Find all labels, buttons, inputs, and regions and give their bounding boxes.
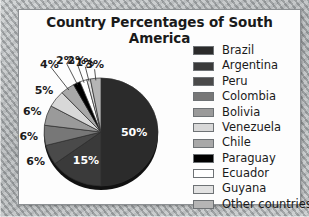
legend-item[interactable]: Peru [193, 74, 309, 89]
pie-slice-value-label: 6% [23, 105, 42, 118]
legend-item-label: Bolivia [222, 107, 260, 119]
pie-chart-svg: 50%15%6%6%6%5%4%2%2%1%3% [19, 28, 179, 206]
legend-item[interactable]: Venezuela [193, 120, 309, 135]
pie-slice-value-label: 50% [121, 126, 147, 139]
legend-item[interactable]: Brazil [193, 43, 309, 58]
legend-item-label: Chile [222, 137, 251, 149]
legend-item-label: Brazil [222, 45, 254, 57]
legend-color-swatch [193, 169, 214, 178]
legend-item-label: Paraguay [222, 153, 276, 165]
legend-item[interactable]: Ecuador [193, 166, 309, 181]
legend-item-label: Guyana [222, 183, 266, 195]
legend-color-swatch [193, 77, 214, 86]
legend-color-swatch [193, 62, 214, 71]
legend-color-swatch [193, 123, 214, 132]
chart-panel: Country Percentages of South America 50%… [18, 9, 301, 205]
pie-slice-value-label: 6% [19, 130, 38, 143]
legend-color-swatch [193, 154, 214, 163]
legend-item-label: Colombia [222, 91, 276, 103]
legend-item-label: Peru [222, 76, 248, 88]
chart-legend: BrazilArgentinaPeruColombiaBoliviaVenezu… [193, 43, 309, 212]
legend-color-swatch [193, 185, 214, 194]
legend-color-swatch [193, 139, 214, 148]
legend-item-label: Ecuador [222, 168, 269, 180]
legend-color-swatch [193, 200, 214, 209]
pie-chart: 50%15%6%6%6%5%4%2%2%1%3% [19, 28, 179, 206]
screenshot-root: Country Percentages of South America 50%… [0, 0, 309, 217]
legend-item-label: Venezuela [222, 122, 281, 134]
pie-slice-value-label: 5% [35, 84, 54, 97]
legend-item-label: Argentina [222, 60, 278, 72]
pie-slice-value-label: 3% [85, 58, 104, 71]
pie-slice-value-label: 6% [26, 155, 45, 168]
legend-item[interactable]: Colombia [193, 89, 309, 104]
legend-item[interactable]: Chile [193, 135, 309, 150]
pie-slice-value-label: 15% [73, 154, 99, 167]
legend-color-swatch [193, 108, 214, 117]
legend-color-swatch [193, 92, 214, 101]
pie-leader-line [52, 68, 69, 90]
legend-color-swatch [193, 46, 214, 55]
legend-item[interactable]: Paraguay [193, 151, 309, 166]
legend-item[interactable]: Argentina [193, 58, 309, 73]
legend-item[interactable]: Bolivia [193, 105, 309, 120]
legend-item[interactable]: Other countries [193, 197, 309, 212]
legend-item-label: Other countries [222, 199, 309, 211]
legend-item[interactable]: Guyana [193, 182, 309, 197]
